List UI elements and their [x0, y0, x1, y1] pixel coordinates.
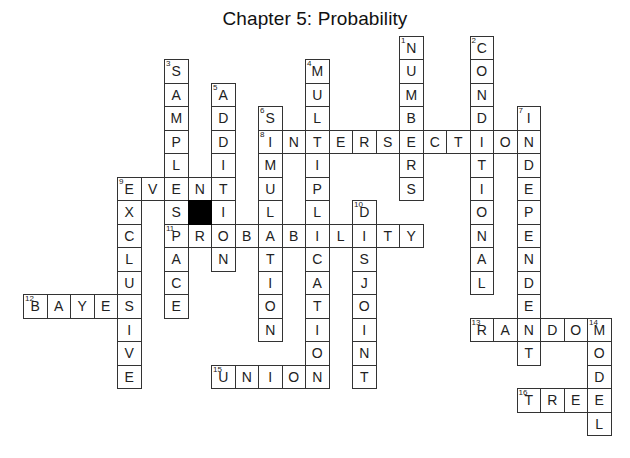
crossword-cell[interactable]: O [282, 365, 307, 390]
crossword-cell[interactable]: P11 [164, 224, 189, 249]
crossword-cell[interactable]: S [117, 294, 142, 319]
crossword-cell[interactable]: E9 [117, 177, 142, 202]
crossword-cell[interactable]: B [235, 224, 260, 249]
crossword-cell[interactable]: V [141, 177, 166, 202]
crossword-cell[interactable]: N [235, 365, 260, 390]
crossword-cell[interactable]: I [352, 224, 377, 249]
crossword-cell[interactable]: O [470, 59, 495, 84]
crossword-cell[interactable]: N [352, 341, 377, 366]
crossword-cell[interactable]: A [164, 83, 189, 108]
crossword-cell[interactable]: R [399, 153, 424, 178]
crossword-cell[interactable]: E [164, 294, 189, 319]
crossword-cell[interactable]: N [517, 318, 542, 343]
crossword-cell[interactable]: D [587, 365, 612, 390]
crossword-cell[interactable]: M [258, 153, 283, 178]
crossword-cell[interactable]: P [164, 130, 189, 155]
crossword-cell[interactable]: O [470, 200, 495, 225]
crossword-cell[interactable]: N1 [399, 36, 424, 61]
crossword-cell[interactable]: R [540, 388, 565, 413]
crossword-cell[interactable]: T [517, 341, 542, 366]
crossword-cell[interactable]: V [117, 341, 142, 366]
crossword-cell[interactable]: I [470, 130, 495, 155]
crossword-cell[interactable]: L [587, 412, 612, 437]
crossword-cell[interactable]: L [258, 200, 283, 225]
crossword-cell[interactable]: E [517, 224, 542, 249]
crossword-cell[interactable]: M14 [587, 318, 612, 343]
crossword-cell[interactable]: U [117, 271, 142, 296]
crossword-cell[interactable]: I [470, 177, 495, 202]
crossword-cell[interactable]: O [211, 224, 236, 249]
crossword-cell[interactable]: A [493, 318, 518, 343]
crossword-cell[interactable]: O [352, 294, 377, 319]
crossword-cell[interactable]: D [211, 106, 236, 131]
crossword-cell[interactable]: T [352, 365, 377, 390]
crossword-cell[interactable]: N [305, 365, 330, 390]
crossword-cell[interactable]: C2 [470, 36, 495, 61]
crossword-cell[interactable]: N [470, 83, 495, 108]
crossword-cell[interactable]: A5 [211, 83, 236, 108]
crossword-cell[interactable]: N [517, 130, 542, 155]
crossword-cell[interactable]: D [470, 106, 495, 131]
crossword-cell[interactable]: E [399, 130, 424, 155]
crossword-cell[interactable]: A [258, 224, 283, 249]
crossword-cell[interactable]: E [329, 130, 354, 155]
crossword-cell[interactable]: I [211, 200, 236, 225]
crossword-cell[interactable]: L [117, 247, 142, 272]
crossword-cell[interactable]: I8 [258, 130, 283, 155]
crossword-cell[interactable]: O [587, 341, 612, 366]
crossword-cell[interactable]: I [305, 224, 330, 249]
crossword-cell[interactable]: T [305, 294, 330, 319]
crossword-cell[interactable]: Y [399, 224, 424, 249]
crossword-cell[interactable]: P [305, 177, 330, 202]
crossword-cell[interactable]: U [305, 83, 330, 108]
crossword-cell[interactable]: R [352, 130, 377, 155]
crossword-cell[interactable]: L [470, 271, 495, 296]
crossword-cell[interactable]: I [352, 318, 377, 343]
crossword-cell[interactable]: T [258, 247, 283, 272]
crossword-cell[interactable]: I [305, 318, 330, 343]
crossword-cell[interactable]: C [117, 224, 142, 249]
crossword-cell[interactable]: O [564, 318, 589, 343]
crossword-cell[interactable]: T16 [517, 388, 542, 413]
crossword-cell[interactable]: N [517, 247, 542, 272]
crossword-cell[interactable]: C [305, 247, 330, 272]
crossword-cell[interactable]: T [470, 153, 495, 178]
crossword-cell[interactable]: T [211, 177, 236, 202]
crossword-cell[interactable]: N [258, 318, 283, 343]
crossword-cell[interactable]: E [517, 294, 542, 319]
crossword-cell[interactable]: I [258, 271, 283, 296]
crossword-cell[interactable]: R [188, 224, 213, 249]
crossword-cell[interactable]: S [164, 200, 189, 225]
crossword-cell[interactable]: U [258, 177, 283, 202]
crossword-cell[interactable]: S [399, 177, 424, 202]
crossword-cell[interactable]: J [352, 271, 377, 296]
crossword-cell[interactable]: T [446, 130, 471, 155]
crossword-cell[interactable]: M [164, 106, 189, 131]
crossword-cell[interactable]: B [399, 106, 424, 131]
crossword-cell[interactable]: E [164, 177, 189, 202]
crossword-cell[interactable]: I [305, 153, 330, 178]
crossword-cell[interactable]: S6 [258, 106, 283, 131]
crossword-cell[interactable]: D10 [352, 200, 377, 225]
crossword-cell[interactable]: M4 [305, 59, 330, 84]
crossword-cell[interactable]: D [540, 318, 565, 343]
crossword-cell[interactable]: L [305, 200, 330, 225]
crossword-cell[interactable]: S3 [164, 59, 189, 84]
crossword-cell[interactable]: L [305, 106, 330, 131]
crossword-cell[interactable]: A [305, 271, 330, 296]
crossword-cell[interactable]: S [352, 247, 377, 272]
crossword-cell[interactable]: T [376, 224, 401, 249]
crossword-cell[interactable]: I7 [517, 106, 542, 131]
crossword-cell[interactable]: A [164, 247, 189, 272]
crossword-cell[interactable]: C [164, 271, 189, 296]
crossword-cell[interactable]: D [517, 271, 542, 296]
crossword-cell[interactable]: Y [70, 294, 95, 319]
crossword-cell[interactable]: O [305, 341, 330, 366]
crossword-cell[interactable]: B [282, 224, 307, 249]
crossword-cell[interactable]: D [517, 153, 542, 178]
crossword-cell[interactable]: I [258, 365, 283, 390]
crossword-cell[interactable]: I [211, 153, 236, 178]
crossword-cell[interactable]: L [329, 224, 354, 249]
crossword-cell[interactable]: I [117, 318, 142, 343]
crossword-cell[interactable]: P [517, 200, 542, 225]
